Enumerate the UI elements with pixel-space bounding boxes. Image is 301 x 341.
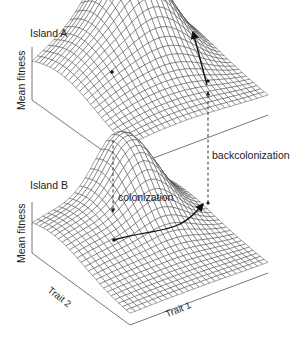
island-a-return-point xyxy=(206,79,209,82)
landscape-drawing xyxy=(0,0,301,341)
island-a-mesh-surface xyxy=(32,0,268,146)
island-b-z-axis-label: Mean fitness xyxy=(16,203,27,263)
island-a-panel xyxy=(32,0,268,168)
island-a-title: Island A xyxy=(30,28,67,39)
island-b-title: Island B xyxy=(30,180,68,191)
island-a-z-axis-label: Mean fitness xyxy=(16,50,27,110)
island-a-start-point xyxy=(110,70,114,74)
colonization-label: colonization xyxy=(118,192,173,203)
island-b-start-point xyxy=(112,238,116,242)
fitness-landscape-figure: Island A Mean fitness Island B Mean fitn… xyxy=(0,0,301,341)
backcolonization-label: backcolonization xyxy=(212,150,290,161)
